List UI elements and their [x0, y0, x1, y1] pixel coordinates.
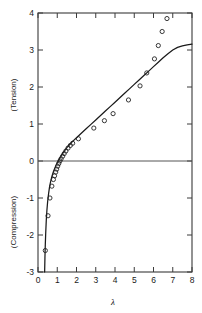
- theoretical-curve: [45, 44, 192, 272]
- x-tick-label: 6: [151, 275, 156, 285]
- x-tick-label: 0: [36, 275, 41, 285]
- y-axis-tick-labels: -3-2-101234: [26, 8, 34, 277]
- y-tick-label: 0: [29, 156, 34, 166]
- y-tick-label: -2: [26, 230, 34, 240]
- y-tick-label: 3: [29, 45, 34, 55]
- x-tick-label: 7: [170, 275, 175, 285]
- x-tick-label: 4: [113, 275, 118, 285]
- y-axis-ticks-left: [38, 13, 43, 272]
- y-tick-label: 2: [29, 82, 34, 92]
- data-point: [138, 84, 142, 88]
- x-tick-label: 3: [93, 275, 98, 285]
- data-point: [156, 43, 160, 47]
- x-tick-label: 5: [132, 275, 137, 285]
- data-point: [50, 184, 54, 188]
- x-tick-label: 1: [55, 275, 60, 285]
- plot-frame: [38, 13, 192, 272]
- x-axis-tick-labels: 012345678: [36, 275, 195, 285]
- model-curve-path: [45, 44, 192, 272]
- data-point-markers: [43, 16, 169, 252]
- data-point: [102, 119, 106, 123]
- data-point: [165, 16, 169, 20]
- y-tick-label: 4: [29, 8, 34, 18]
- data-point: [111, 112, 115, 116]
- y-tick-label: 1: [29, 119, 34, 129]
- x-tick-label: 8: [190, 275, 195, 285]
- x-axis-title: λ: [110, 297, 115, 307]
- y-axis-ticks-right: [187, 13, 192, 272]
- y-axis-tension-label: (Tension): [9, 78, 18, 111]
- data-point: [152, 57, 156, 61]
- chart-container: 012345678 -3-2-101234 λ (Tension) (Compr…: [0, 0, 202, 313]
- y-tick-label: -1: [26, 193, 34, 203]
- x-tick-label: 2: [74, 275, 79, 285]
- x-axis-ticks-bottom: [38, 267, 192, 272]
- stress-strain-plot: 012345678 -3-2-101234 λ (Tension) (Compr…: [0, 0, 202, 313]
- y-axis-compression-label: (Compression): [9, 195, 18, 248]
- data-point: [92, 126, 96, 130]
- data-point: [76, 137, 80, 141]
- y-tick-label: -3: [26, 267, 34, 277]
- data-point: [126, 98, 130, 102]
- data-point: [160, 29, 164, 33]
